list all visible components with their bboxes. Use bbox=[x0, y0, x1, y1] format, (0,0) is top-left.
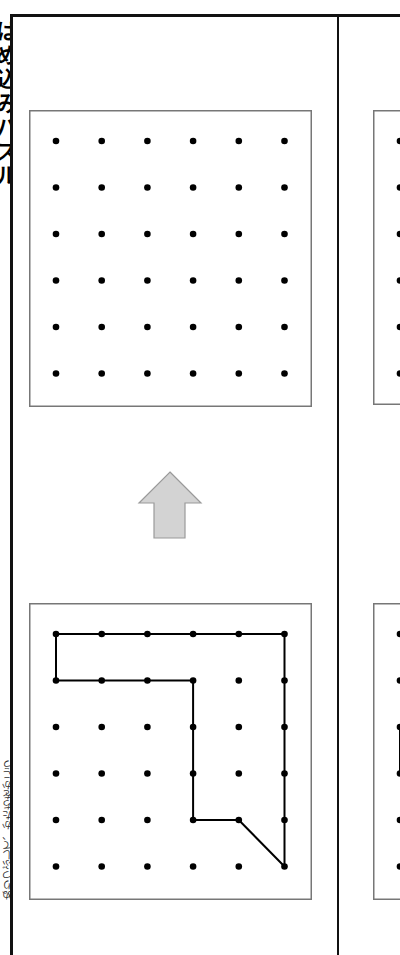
grid-dot bbox=[144, 324, 151, 331]
grid-dot bbox=[236, 677, 243, 684]
grid-dot bbox=[53, 370, 60, 377]
grid-dot bbox=[281, 863, 288, 870]
grid-dot bbox=[144, 770, 151, 777]
side-title-text: はめ込みパズル bbox=[0, 20, 10, 188]
grid-dot bbox=[236, 863, 243, 870]
grid-dot bbox=[281, 677, 288, 684]
side-note-text: ぬりつぶして、かたちをかこう bbox=[0, 760, 10, 900]
grid-dot bbox=[236, 770, 243, 777]
grid-dot bbox=[190, 184, 197, 191]
grid-dot bbox=[236, 370, 243, 377]
grid-dot bbox=[190, 631, 197, 638]
grid-dot bbox=[236, 817, 243, 824]
grid-dot bbox=[190, 770, 197, 777]
grid-dot bbox=[53, 324, 60, 331]
grid-dot bbox=[281, 370, 288, 377]
left-reference-shape-board bbox=[29, 603, 312, 900]
grid-dot bbox=[190, 817, 197, 824]
grid-dot bbox=[53, 770, 60, 777]
grid-dot bbox=[236, 724, 243, 731]
grid-dot bbox=[236, 138, 243, 145]
grid-dot bbox=[53, 677, 60, 684]
grid-dot bbox=[98, 231, 105, 238]
grid-dot bbox=[98, 631, 105, 638]
grid-dot bbox=[98, 724, 105, 731]
grid-dot bbox=[281, 231, 288, 238]
grid-dot bbox=[98, 677, 105, 684]
left-empty-board[interactable] bbox=[29, 110, 312, 407]
right-reference-shape-board bbox=[373, 603, 400, 900]
grid-dot bbox=[236, 324, 243, 331]
grid-dot bbox=[98, 863, 105, 870]
grid-dot bbox=[98, 324, 105, 331]
grid-dot bbox=[190, 863, 197, 870]
grid-dot bbox=[144, 677, 151, 684]
grid-dot bbox=[98, 277, 105, 284]
grid-dot bbox=[236, 631, 243, 638]
grid-dot bbox=[190, 370, 197, 377]
grid-dot bbox=[281, 324, 288, 331]
grid-dot bbox=[144, 231, 151, 238]
grid-dot bbox=[190, 324, 197, 331]
grid-dot bbox=[53, 138, 60, 145]
grid-dot bbox=[281, 277, 288, 284]
grid-dot bbox=[190, 677, 197, 684]
grid-dot bbox=[144, 370, 151, 377]
grid-dot bbox=[281, 724, 288, 731]
grid-dot bbox=[144, 631, 151, 638]
grid-dot bbox=[98, 184, 105, 191]
grid-dot bbox=[53, 817, 60, 824]
grid-dot bbox=[281, 817, 288, 824]
panel-divider bbox=[337, 14, 339, 955]
grid-dot bbox=[144, 138, 151, 145]
grid-dot bbox=[281, 138, 288, 145]
grid-dot bbox=[144, 724, 151, 731]
grid-dot bbox=[98, 770, 105, 777]
grid-dot bbox=[190, 724, 197, 731]
up-arrow-icon bbox=[130, 465, 210, 545]
grid-dot bbox=[236, 184, 243, 191]
grid-dot bbox=[281, 184, 288, 191]
grid-dot bbox=[236, 277, 243, 284]
grid-dot bbox=[53, 724, 60, 731]
side-title: はめ込みパズル bbox=[0, 20, 10, 190]
grid-dot bbox=[53, 231, 60, 238]
grid-dot bbox=[53, 184, 60, 191]
grid-dot bbox=[190, 231, 197, 238]
grid-dot bbox=[144, 277, 151, 284]
grid-dot bbox=[53, 863, 60, 870]
grid-dot bbox=[190, 277, 197, 284]
side-note: ぬりつぶして、かたちをかこう bbox=[0, 760, 10, 955]
grid-dot bbox=[53, 631, 60, 638]
grid-dot bbox=[281, 631, 288, 638]
grid-dot bbox=[98, 138, 105, 145]
grid-dot bbox=[144, 184, 151, 191]
grid-dot bbox=[144, 863, 151, 870]
grid-dot bbox=[53, 277, 60, 284]
right-empty-board[interactable] bbox=[373, 110, 400, 405]
grid-dot bbox=[190, 138, 197, 145]
grid-dot bbox=[98, 817, 105, 824]
grid-dot bbox=[98, 370, 105, 377]
grid-dot bbox=[144, 817, 151, 824]
grid-dot bbox=[236, 231, 243, 238]
grid-dot bbox=[281, 770, 288, 777]
